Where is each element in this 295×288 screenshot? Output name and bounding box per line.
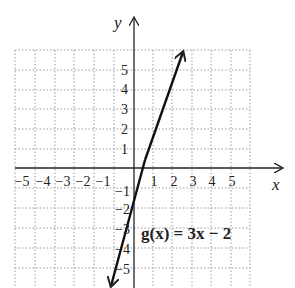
x-tick: 3 [190,174,197,189]
y-tick: 2 [121,122,128,137]
y-tick: 3 [121,102,128,117]
y-tick: 5 [121,63,128,78]
x-tick: 1 [151,174,158,189]
x-tick: 2 [171,174,178,189]
function-graph: y x −5 −4 −3 −2 −1 1 2 3 4 5 5 4 3 2 1 −… [0,0,295,288]
x-tick: −1 [96,174,111,189]
y-tick: −4 [115,242,130,257]
y-tick: 1 [121,142,128,157]
x-tick: −4 [36,174,51,189]
function-line [145,52,183,160]
y-tick: −3 [115,222,130,237]
equation-label: g(x) = 3x − 2 [141,224,231,243]
x-tick: −5 [15,174,30,189]
x-tick: −3 [56,174,71,189]
y-tick: 4 [121,82,128,97]
y-tick: −1 [115,184,130,199]
x-tick: −2 [76,174,91,189]
y-tick: −5 [115,262,130,277]
x-tick: 5 [229,174,236,189]
grid [15,50,250,288]
y-tick: −2 [115,202,130,217]
x-tick: 4 [209,174,216,189]
y-axis-label: y [112,13,122,32]
x-axis-label: x [271,175,280,194]
